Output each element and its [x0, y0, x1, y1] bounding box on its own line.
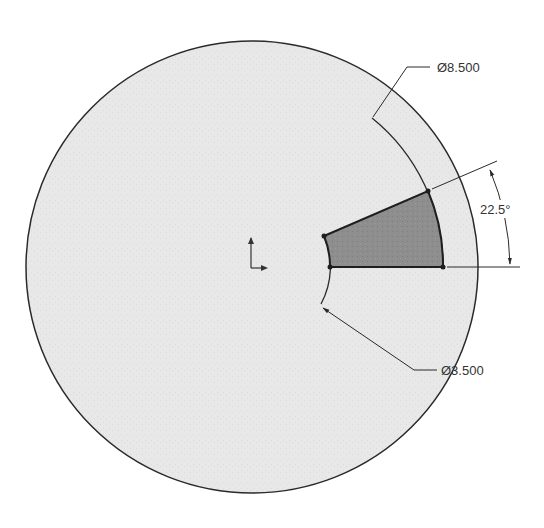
angle-dimension-label[interactable]: 22.5°	[480, 202, 511, 217]
sector-vertex[interactable]	[322, 234, 327, 239]
sector-vertex[interactable]	[328, 265, 333, 270]
outer-diameter-label[interactable]: Ø8.500	[437, 60, 480, 75]
cad-drawing-canvas: 22.5° Ø8.500 Ø3.500	[0, 0, 544, 528]
inner-diameter-label[interactable]: Ø3.500	[441, 363, 484, 378]
sector-vertex[interactable]	[426, 189, 431, 194]
sector-vertex[interactable]	[441, 265, 446, 270]
